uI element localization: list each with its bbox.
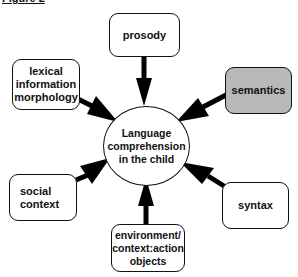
node-prosody: prosody xyxy=(109,13,180,57)
center-node-language-comprehension: Language comprehension in the child xyxy=(103,106,190,186)
node-syntax: syntax xyxy=(222,182,289,229)
center-node-label: Language comprehension in the child xyxy=(107,127,185,166)
arrow-social-to-center xyxy=(76,158,110,184)
node-label: social context xyxy=(20,185,59,211)
arrow-lexical-to-center xyxy=(78,96,118,122)
node-label: lexical information morphology xyxy=(14,65,78,104)
arrow-prosody-to-center xyxy=(136,56,152,106)
arrow-semantics-to-center xyxy=(176,95,226,122)
node-environment-context-action-objects: environment/ context:action objects xyxy=(111,224,185,272)
arrow-syntax-to-center xyxy=(180,162,224,186)
node-label: environment/ context:action objects xyxy=(112,229,184,268)
node-label: semantics xyxy=(232,84,286,97)
node-social-context: social context xyxy=(9,174,77,221)
node-label: syntax xyxy=(238,199,273,212)
node-semantics: semantics xyxy=(225,67,292,114)
node-label: prosody xyxy=(123,29,166,42)
language-comprehension-diagram: Figure 2 La xyxy=(0,0,298,277)
node-lexical-information-morphology: lexical information morphology xyxy=(12,59,80,110)
